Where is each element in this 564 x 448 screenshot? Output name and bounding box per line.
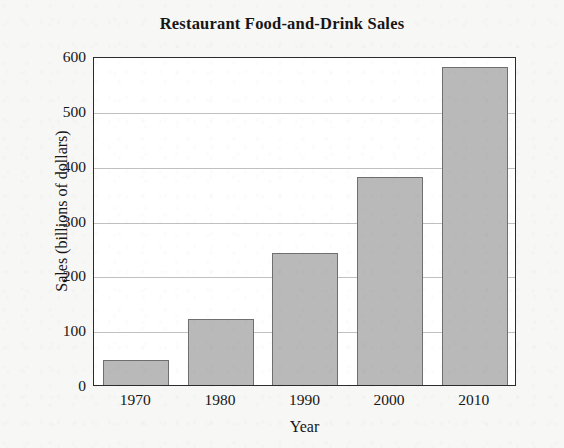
bar[interactable] [103, 360, 169, 385]
bar-slot [432, 58, 517, 385]
bar[interactable] [188, 319, 254, 385]
bar[interactable] [272, 253, 338, 385]
bar-slot [94, 58, 179, 385]
x-axis-label: Year [93, 418, 516, 436]
chart-title: Restaurant Food-and-Drink Sales [0, 14, 564, 34]
bar[interactable] [442, 67, 508, 385]
bar-slot [179, 58, 264, 385]
bar[interactable] [357, 177, 423, 385]
y-axis-tick-label: 0 [33, 377, 86, 395]
bar-slot [263, 58, 348, 385]
x-axis-tick-label: 2010 [431, 391, 516, 409]
y-axis-tick-label: 600 [33, 48, 86, 66]
x-axis-tick-label: 1970 [93, 391, 178, 409]
x-axis-tick-label: 1980 [178, 391, 263, 409]
x-axis-tick-label: 2000 [347, 391, 432, 409]
chart-figure: Restaurant Food-and-Drink Sales Sales (b… [0, 0, 564, 448]
y-axis-tick-label: 500 [33, 103, 86, 121]
y-axis-tick-label: 100 [33, 322, 86, 340]
y-axis-tick-label: 200 [33, 267, 86, 285]
bar-series [94, 58, 515, 385]
y-axis-tick-label: 400 [33, 158, 86, 176]
plot-area [93, 57, 516, 386]
x-axis-tick-label: 1990 [262, 391, 347, 409]
y-axis-tick-label: 300 [33, 213, 86, 231]
bar-slot [348, 58, 433, 385]
